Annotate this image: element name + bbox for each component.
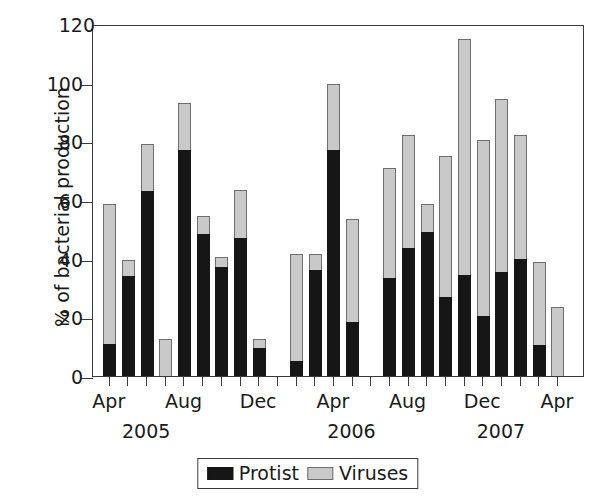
bar-segment-viruses	[197, 216, 210, 234]
x-month-label: Apr	[92, 390, 125, 412]
bar-segment-protist	[122, 276, 135, 376]
bar-segment-protist	[197, 234, 210, 376]
legend-label-viruses: Viruses	[339, 462, 408, 484]
legend-label-protist: Protist	[239, 462, 299, 484]
bar-may-2006	[346, 219, 359, 376]
bar-jul-2005	[159, 339, 172, 376]
x-month-label: Aug	[165, 390, 202, 412]
bar-segment-protist	[346, 322, 359, 376]
x-tick-mark	[296, 377, 297, 386]
bar-segment-protist	[253, 348, 266, 376]
legend-entry-protist: Protist	[207, 462, 299, 484]
bar-segment-viruses	[122, 260, 135, 276]
bar-segment-viruses	[477, 140, 490, 316]
x-tick-mark	[127, 377, 128, 386]
x-tick-mark	[277, 377, 278, 386]
x-tick-mark	[520, 377, 521, 386]
y-tick-label: 0	[71, 366, 83, 388]
bar-segment-viruses	[141, 144, 154, 191]
x-tick-mark	[482, 377, 483, 386]
bar-segment-protist	[103, 344, 116, 376]
x-year-label: 2007	[477, 420, 525, 442]
x-year-label: 2005	[122, 420, 170, 442]
bar-sep-2005	[197, 216, 210, 376]
x-month-label: Aug	[389, 390, 426, 412]
bar-segment-viruses	[178, 103, 191, 150]
bar-segment-protist	[309, 270, 322, 376]
bar-dec-2005	[253, 339, 266, 376]
bar-aug-2006	[402, 135, 415, 376]
bar-segment-viruses	[309, 254, 322, 270]
bar-segment-viruses	[551, 307, 564, 376]
bar-may-2005	[122, 260, 135, 376]
chart-legend: Protist Viruses	[197, 458, 418, 489]
bar-segment-protist	[402, 248, 415, 376]
bar-segment-protist	[458, 275, 471, 376]
bar-segment-viruses	[346, 219, 359, 322]
x-tick-mark	[258, 377, 259, 386]
black-swatch-icon	[207, 467, 233, 480]
x-tick-mark	[202, 377, 203, 386]
gray-swatch-icon	[307, 467, 333, 480]
y-tick-label: 40	[59, 249, 83, 271]
bar-series-container	[93, 26, 583, 376]
x-tick-mark	[221, 377, 222, 386]
bar-segment-protist	[327, 150, 340, 376]
x-tick-mark	[240, 377, 241, 386]
x-tick-mark	[408, 377, 409, 386]
bar-segment-viruses	[103, 204, 116, 343]
x-tick-mark	[146, 377, 147, 386]
x-tick-mark	[445, 377, 446, 386]
bar-mar-2006	[309, 254, 322, 376]
y-tick-label: 80	[59, 131, 83, 153]
bar-segment-protist	[533, 345, 546, 376]
bar-segment-viruses	[458, 39, 471, 275]
y-tick-label: 120	[59, 14, 95, 36]
bar-segment-viruses	[421, 204, 434, 232]
x-axis-ticks	[92, 377, 584, 389]
bar-segment-viruses	[383, 168, 396, 278]
x-year-label: 2006	[327, 420, 375, 442]
x-tick-mark	[183, 377, 184, 386]
x-tick-mark	[352, 377, 353, 386]
bar-segment-protist	[495, 272, 508, 376]
bar-segment-protist	[290, 361, 303, 376]
x-tick-mark	[109, 377, 110, 386]
x-tick-mark	[501, 377, 502, 386]
bar-segment-viruses	[327, 84, 340, 150]
bar-segment-protist	[477, 316, 490, 376]
bar-jun-2005	[141, 144, 154, 376]
x-tick-mark	[464, 377, 465, 386]
bar-segment-viruses	[253, 339, 266, 348]
bar-segment-viruses	[290, 254, 303, 361]
bar-feb-2007	[514, 135, 527, 376]
x-tick-mark	[165, 377, 166, 386]
bar-aug-2005	[178, 103, 191, 376]
bar-segment-protist	[514, 259, 527, 376]
bar-segment-viruses	[234, 190, 247, 238]
bar-jan-2007	[495, 99, 508, 376]
bar-nov-2006	[458, 39, 471, 376]
x-tick-mark	[370, 377, 371, 386]
y-tick-label: 20	[59, 307, 83, 329]
y-tick-label: 60	[59, 190, 83, 212]
bar-segment-viruses	[514, 135, 527, 258]
bar-segment-viruses	[533, 262, 546, 346]
bar-segment-viruses	[159, 339, 172, 376]
plot-area: 020406080100120	[92, 25, 584, 377]
bar-segment-viruses	[402, 135, 415, 248]
bar-segment-viruses	[495, 99, 508, 272]
bar-segment-protist	[439, 297, 452, 376]
bar-sep-2006	[421, 204, 434, 376]
bar-mar-2007	[533, 262, 546, 376]
x-tick-mark	[333, 377, 334, 386]
bar-dec-2006	[477, 140, 490, 376]
bar-apr-2007	[551, 307, 564, 376]
x-tick-mark	[538, 377, 539, 386]
x-month-label: Apr	[540, 390, 573, 412]
bar-oct-2006	[439, 156, 452, 376]
x-axis-year-labels: 200520062007	[0, 420, 615, 446]
bar-feb-2006	[290, 254, 303, 376]
bar-nov-2005	[234, 190, 247, 376]
bar-segment-protist	[383, 278, 396, 376]
